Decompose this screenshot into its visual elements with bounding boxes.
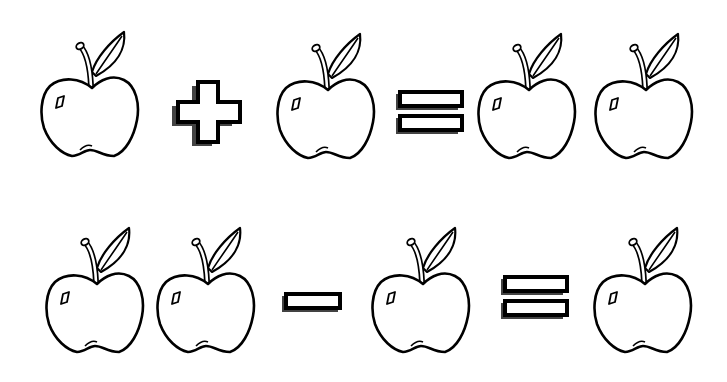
apple-icon xyxy=(371,224,471,356)
equals-sign-icon xyxy=(499,275,569,321)
apple-icon xyxy=(276,30,376,162)
equals-sign-icon xyxy=(394,90,464,136)
apple-icon xyxy=(477,30,577,162)
apple-icon xyxy=(40,28,140,160)
apple-icon xyxy=(593,224,693,356)
minus-sign-icon xyxy=(281,292,343,314)
apple-icon xyxy=(156,224,256,356)
apple-icon xyxy=(45,224,145,356)
plus-sign-icon xyxy=(172,80,244,150)
apple-icon xyxy=(594,30,694,162)
